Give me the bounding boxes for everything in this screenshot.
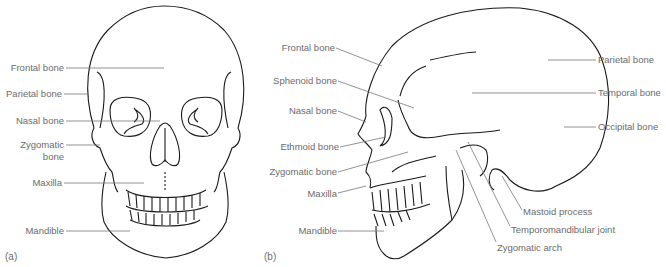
label-mastoid-process: Mastoid process: [523, 206, 592, 217]
label-occipital-bone: Occipital bone: [598, 121, 658, 132]
label-nasal-bone-b: Nasal bone: [289, 105, 337, 116]
label-zygomatic-bone-b: Zygomatic bone: [269, 166, 337, 177]
anterior-leader-lines: [64, 68, 164, 231]
anterior-skull-drawing: [88, 6, 244, 258]
label-maxilla-a: Maxilla: [32, 177, 62, 188]
label-zygomatic-bone-a-line2: bone: [43, 151, 64, 162]
label-frontal-bone-a: Frontal bone: [11, 62, 64, 73]
label-temporomandibular-joint: Temporomandibular joint: [511, 224, 615, 235]
label-mandible-b: Mandible: [298, 225, 337, 236]
label-nasal-bone-a: Nasal bone: [16, 115, 64, 126]
label-maxilla-b: Maxilla: [307, 188, 337, 199]
panel-tag-b: (b): [264, 251, 276, 262]
label-frontal-bone-b: Frontal bone: [282, 42, 335, 53]
label-zygomatic-arch: Zygomatic arch: [497, 242, 562, 253]
label-zygomatic-bone-a-line1: Zygomatic: [20, 139, 64, 150]
label-parietal-bone-a: Parietal bone: [6, 88, 62, 99]
label-ethmoid-bone: Ethmoid bone: [280, 141, 339, 152]
label-parietal-bone-b: Parietal bone: [598, 54, 654, 65]
label-temporal-bone: Temporal bone: [598, 87, 661, 98]
label-sphenoid-bone: Sphenoid bone: [273, 75, 337, 86]
panel-tag-a: (a): [5, 251, 17, 262]
label-mandible-a: Mandible: [25, 225, 64, 236]
lateral-skull-drawing: [358, 8, 609, 259]
